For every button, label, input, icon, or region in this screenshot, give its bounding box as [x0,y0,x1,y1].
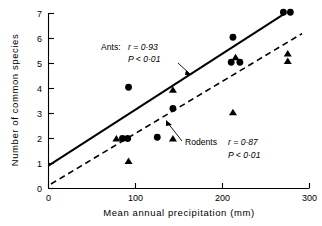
scatter-plot-figure: 7 6 5 4 3 2 1 0 0 100 200 300 Mean annua… [0,0,322,226]
data-point-rodents [125,157,133,164]
data-point-ants [280,9,287,16]
ants-annotation-r: r = 0·93 [128,42,158,52]
x-tick-label-300: 300 [302,193,317,203]
ants-annotation-label: Ants: [101,42,121,52]
data-point-rodents [284,50,292,57]
rodents-annotation-r: r = 0·87 [228,137,259,147]
x-axis-ticks [49,183,310,189]
data-point-rodents [284,57,292,64]
ants-annotation: Ants: r = 0·93 P < 0·01 [101,42,191,75]
rodents-annotation-p: P < 0·01 [228,150,261,160]
plot-canvas: 7 6 5 4 3 2 1 0 0 100 200 300 Mean annua… [0,0,322,226]
y-tick-label-5: 5 [37,59,42,69]
data-point-ants [125,84,132,91]
y-tick-label-4: 4 [37,84,42,94]
y-axis-title: Number of common species [9,34,20,167]
rodents-fit-line [51,34,302,184]
rodents-leader-arrow [166,120,172,126]
y-tick-label-2: 2 [37,134,42,144]
data-point-ants [124,135,131,142]
rodents-annotation-label: Rodents [185,137,217,147]
x-tick-label-100: 100 [128,193,143,203]
data-point-rodents [229,109,237,116]
x-axis-title: Mean annual precipitation (mm) [103,207,255,218]
x-tick-label-0: 0 [46,193,51,203]
y-tick-label-0: 0 [37,184,42,194]
data-point-rodents [232,54,240,61]
y-tick-label-6: 6 [37,34,42,44]
data-point-ants [154,134,161,141]
data-point-ants [287,9,294,16]
rodents-annotation: Rodents r = 0·87 P < 0·01 [166,120,261,160]
ants-annotation-p: P < 0·01 [128,54,161,64]
y-tick-label-1: 1 [37,159,42,169]
data-point-rodents [169,135,177,142]
x-tick-label-200: 200 [215,193,230,203]
ants-leader-arrow [185,70,191,75]
data-point-ants [170,105,177,112]
data-point-ants [230,34,237,41]
y-tick-label-7: 7 [37,9,42,19]
y-tick-label-3: 3 [37,109,42,119]
